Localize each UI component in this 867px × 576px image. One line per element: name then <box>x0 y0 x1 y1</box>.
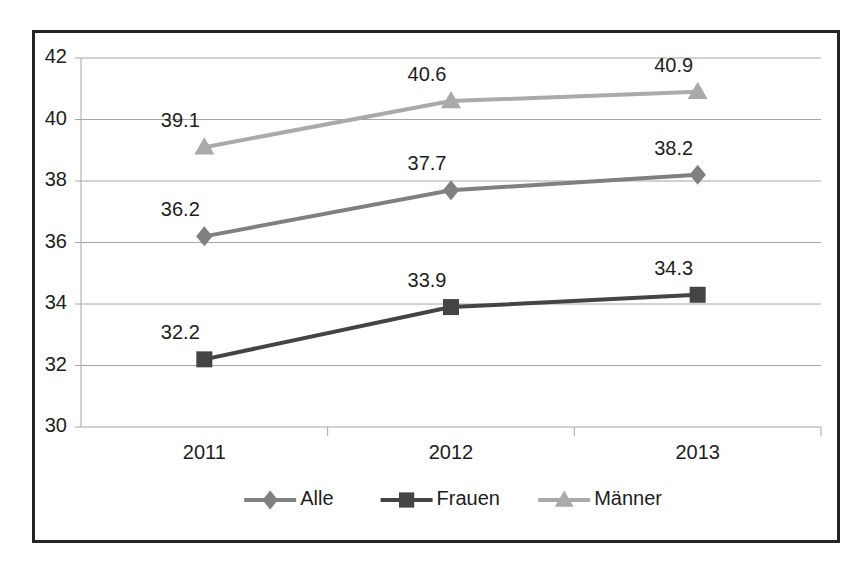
data-point-label: 34.3 <box>654 257 693 279</box>
data-point-label: 38.2 <box>654 137 693 159</box>
legend-item[interactable]: Männer <box>538 487 662 509</box>
legend-marker <box>399 492 414 507</box>
series-marker <box>690 287 706 303</box>
series-marker <box>443 299 459 315</box>
y-axis-tick-label: 30 <box>45 414 67 436</box>
data-point-label: 40.6 <box>408 63 447 85</box>
data-point-label: 32.2 <box>161 321 200 343</box>
chart-plot-area: 3032343638404220112012201336.237.738.232… <box>35 33 837 540</box>
y-axis-tick-label: 42 <box>45 45 67 67</box>
legend-item[interactable]: Frauen <box>381 487 500 509</box>
series-marker <box>443 180 459 200</box>
legend-label: Frauen <box>437 487 500 509</box>
y-axis-tick-label: 40 <box>45 107 67 129</box>
data-point-label: 39.1 <box>161 109 200 131</box>
data-point-label: 33.9 <box>408 269 447 291</box>
x-axis-tick-label: 2012 <box>429 441 474 463</box>
chart-border-frame: 3032343638404220112012201336.237.738.232… <box>32 30 840 543</box>
y-axis-tick-label: 38 <box>45 168 67 190</box>
x-axis-tick-label: 2011 <box>183 441 226 463</box>
data-point-label: 37.7 <box>408 152 447 174</box>
series-marker <box>196 226 212 246</box>
data-point-label: 36.2 <box>161 198 200 220</box>
data-point-label: 40.9 <box>654 54 693 76</box>
legend-label: Männer <box>594 487 662 509</box>
x-axis-tick-label: 2013 <box>675 441 720 463</box>
y-axis-tick-label: 34 <box>45 291 67 313</box>
line-chart: 3032343638404220112012201336.237.738.232… <box>35 33 837 540</box>
legend-label: Alle <box>300 487 333 509</box>
series-marker <box>689 165 705 185</box>
series-marker <box>196 351 212 367</box>
legend-item[interactable]: Alle <box>244 487 333 509</box>
legend-marker <box>262 491 278 510</box>
y-axis-tick-label: 32 <box>45 353 67 375</box>
y-axis-tick-label: 36 <box>45 230 67 252</box>
